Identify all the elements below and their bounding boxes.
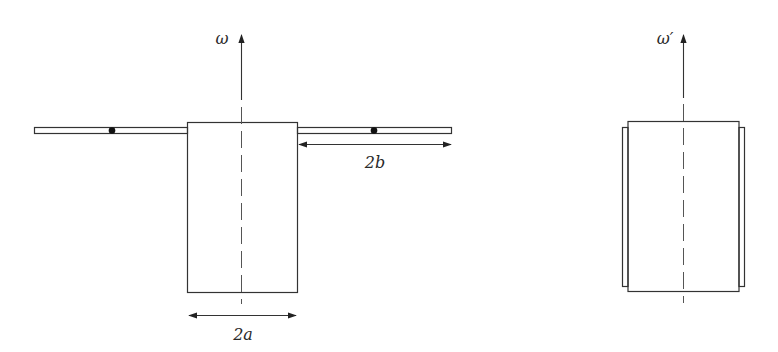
right-figure: ω′	[623, 29, 745, 303]
right-side-strip	[739, 128, 745, 287]
omega-label: ω	[215, 29, 228, 48]
omega-prime-label: ω′	[657, 29, 674, 48]
right-point-mass	[371, 127, 378, 134]
diagram-canvas: ω 2b 2a ω′	[0, 0, 778, 352]
left-point-mass	[109, 127, 116, 134]
left-figure: ω 2b 2a	[35, 29, 452, 344]
body-width-label: 2a	[232, 325, 253, 344]
left-side-strip	[623, 128, 629, 287]
rod-length-label: 2b	[364, 153, 385, 172]
central-body	[188, 123, 298, 293]
